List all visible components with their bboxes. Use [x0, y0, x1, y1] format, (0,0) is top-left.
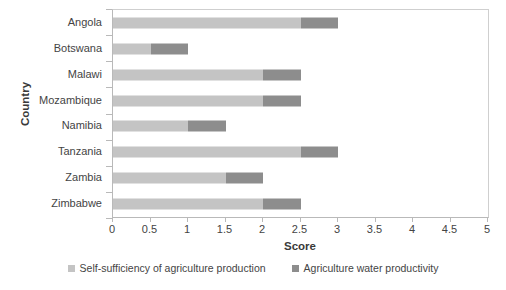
x-tick-label: 4: [409, 223, 415, 235]
x-tick-label: 3.5: [367, 223, 382, 235]
plot-area: [112, 9, 489, 218]
stacked-bar[interactable]: [113, 173, 263, 184]
bar-row: [113, 10, 488, 36]
x-tick-mark: [225, 217, 226, 222]
x-tick-mark: [375, 217, 376, 222]
x-axis-tick-labels: 00.511.522.533.544.55: [112, 223, 488, 239]
category-label: Angola: [24, 9, 108, 35]
x-tick-label: 3: [334, 223, 340, 235]
stacked-bar[interactable]: [113, 17, 338, 28]
bar-row: [113, 88, 488, 114]
chart-legend: Self-sufficiency of agriculture producti…: [0, 262, 506, 274]
x-tick-label: 4.5: [442, 223, 457, 235]
stacked-bar[interactable]: [113, 69, 301, 80]
x-tick-label: 0.5: [142, 223, 157, 235]
bar-chart: Country AngolaBotswanaMalawiMozambiqueNa…: [0, 0, 506, 290]
bar-segment-series-2[interactable]: [188, 121, 226, 132]
legend-swatch-icon: [292, 265, 299, 272]
x-tick-label: 1: [184, 223, 190, 235]
x-tick-mark: [262, 217, 263, 222]
category-label: Mozambique: [24, 87, 108, 113]
x-tick-mark: [300, 217, 301, 222]
x-tick-label: 1.5: [217, 223, 232, 235]
bar-segment-series-2[interactable]: [151, 43, 189, 54]
bar-segment-series-1[interactable]: [113, 173, 226, 184]
x-tick-mark: [487, 217, 488, 222]
bar-row: [113, 139, 488, 165]
x-tick-mark: [450, 217, 451, 222]
x-tick-mark: [187, 217, 188, 222]
bar-row: [113, 191, 488, 217]
x-axis-title: Score: [112, 240, 488, 252]
x-tick-mark: [337, 217, 338, 222]
y-axis-category-labels: AngolaBotswanaMalawiMozambiqueNamibiaTan…: [24, 9, 108, 216]
x-tick-mark: [150, 217, 151, 222]
category-label: Malawi: [24, 61, 108, 87]
legend-label: Agriculture water productivity: [304, 262, 439, 274]
x-tick-label: 0: [109, 223, 115, 235]
stacked-bar[interactable]: [113, 121, 226, 132]
bar-segment-series-2[interactable]: [226, 173, 264, 184]
category-label: Zimbabwe: [24, 190, 108, 216]
bar-segment-series-1[interactable]: [113, 121, 188, 132]
stacked-bar[interactable]: [113, 95, 301, 106]
bar-row: [113, 36, 488, 62]
category-label: Tanzania: [24, 138, 108, 164]
bar-segment-series-2[interactable]: [263, 199, 301, 210]
bar-segment-series-2[interactable]: [301, 17, 339, 28]
bar-row: [113, 165, 488, 191]
category-label: Zambia: [24, 164, 108, 190]
bar-rows: [113, 10, 488, 217]
bar-segment-series-1[interactable]: [113, 147, 301, 158]
legend-item[interactable]: Self-sufficiency of agriculture producti…: [68, 262, 266, 274]
stacked-bar[interactable]: [113, 43, 188, 54]
stacked-bar[interactable]: [113, 199, 301, 210]
bar-segment-series-1[interactable]: [113, 43, 151, 54]
x-tick-mark: [412, 217, 413, 222]
x-tick-label: 5: [484, 223, 490, 235]
category-label: Botswana: [24, 35, 108, 61]
x-tick-mark: [112, 217, 113, 222]
bar-segment-series-1[interactable]: [113, 69, 263, 80]
legend-swatch-icon: [68, 265, 75, 272]
legend-item[interactable]: Agriculture water productivity: [292, 262, 439, 274]
bar-row: [113, 114, 488, 140]
bar-row: [113, 62, 488, 88]
legend-label: Self-sufficiency of agriculture producti…: [80, 262, 266, 274]
bar-segment-series-2[interactable]: [263, 69, 301, 80]
x-tick-label: 2.5: [292, 223, 307, 235]
category-label: Namibia: [24, 113, 108, 139]
bar-segment-series-1[interactable]: [113, 199, 263, 210]
bar-segment-series-1[interactable]: [113, 17, 301, 28]
bar-segment-series-2[interactable]: [263, 95, 301, 106]
bar-segment-series-2[interactable]: [301, 147, 339, 158]
stacked-bar[interactable]: [113, 147, 338, 158]
x-tick-label: 2: [259, 223, 265, 235]
bar-segment-series-1[interactable]: [113, 95, 263, 106]
